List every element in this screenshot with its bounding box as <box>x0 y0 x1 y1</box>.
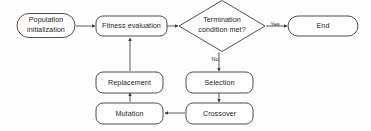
population-initialization-label-line1: Population <box>29 15 63 24</box>
node-population-initialization[interactable]: Population initialization <box>17 14 75 38</box>
node-termination-condition[interactable]: Termination condition met? <box>179 1 265 52</box>
mutation-label: Mutation <box>116 109 144 118</box>
node-mutation[interactable]: Mutation <box>96 103 163 124</box>
edge-label-no: No <box>211 56 218 62</box>
edge-group <box>76 26 287 113</box>
edge-label-yes: Yes <box>270 21 279 27</box>
termination-condition-label-line1: Termination <box>203 15 241 24</box>
node-crossover[interactable]: Crossover <box>186 103 253 124</box>
population-initialization-label-line2: initialization <box>27 25 65 34</box>
node-fitness-evaluation[interactable]: Fitness evaluation <box>96 16 167 36</box>
flowchart-canvas: Yes No Population initialization Fitness… <box>0 0 371 131</box>
end-label: End <box>317 21 330 30</box>
node-replacement[interactable]: Replacement <box>96 72 163 93</box>
crossover-label: Crossover <box>203 109 237 118</box>
flowchart-svg: Yes No Population initialization Fitness… <box>0 0 371 131</box>
termination-condition-label-line2: condition met? <box>198 25 245 34</box>
node-end[interactable]: End <box>288 16 358 36</box>
replacement-label: Replacement <box>108 78 151 87</box>
selection-label: Selection <box>204 78 234 87</box>
fitness-evaluation-label: Fitness evaluation <box>102 21 161 30</box>
node-selection[interactable]: Selection <box>186 72 253 93</box>
